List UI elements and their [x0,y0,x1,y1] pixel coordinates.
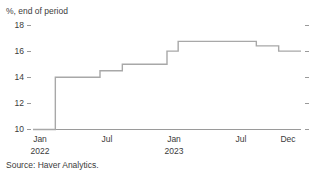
xtick-label-jan-2022: Jan [20,134,60,144]
xtick-label-jul-2023: Jul [221,134,261,144]
xtick-label-jul-2022: Jul [87,134,127,144]
source-note: Source: Haver Analytics. [6,160,99,170]
xtick-year-2023: 2023 [154,146,194,156]
xtick-label-dec-2023: Dec [268,134,308,144]
xtick-year-2022: 2022 [20,146,60,156]
xtick-label-jan-2023: Jan [154,134,194,144]
chart-container: %, end of period 18 16 14 12 10 Jan 2022… [0,0,320,175]
policy-rate-series [33,41,301,129]
